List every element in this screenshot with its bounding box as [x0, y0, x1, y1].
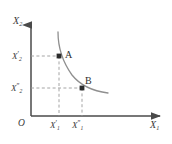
- point-label-a: A: [65, 50, 72, 60]
- y-tick-2-sub: 2: [19, 88, 22, 94]
- figure-canvas: [0, 0, 172, 144]
- point-marker-a: [57, 54, 62, 59]
- x-tick-2-sub: 1: [80, 125, 83, 131]
- y-tick-1-sub: 2: [19, 56, 22, 62]
- x-tick-label-x1-prime: X′1: [50, 120, 60, 131]
- origin-label: O: [18, 119, 25, 129]
- x-axis-label-sub: 1: [156, 124, 159, 131]
- y-tick-label-x2-prime: X′2: [12, 51, 22, 62]
- isoquant-curve: [58, 32, 108, 93]
- point-label-b: B: [85, 76, 92, 86]
- origin-label-text: O: [18, 118, 25, 128]
- y-axis-label: X2: [13, 16, 22, 27]
- x-tick-1-sub: 1: [57, 125, 60, 131]
- y-axis-label-sub: 2: [19, 20, 22, 27]
- x-axis-label: X1: [150, 120, 159, 131]
- point-marker-b: [80, 86, 85, 91]
- y-tick-label-x2-double-prime: X″2: [11, 83, 22, 94]
- economics-isoquant-figure: X2 X1 O X′2 X″2 X′1 X″1 A B: [0, 0, 172, 144]
- x-tick-label-x1-double-prime: X″1: [72, 120, 83, 131]
